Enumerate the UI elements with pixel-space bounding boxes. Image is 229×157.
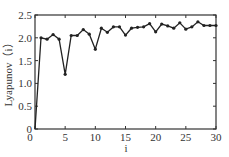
data-point-marker <box>112 25 115 28</box>
data-point-marker <box>136 26 139 29</box>
data-series <box>35 20 218 129</box>
data-point-marker <box>208 24 211 27</box>
data-point-marker <box>142 25 145 28</box>
data-point-marker <box>214 24 217 27</box>
plot-border <box>35 15 216 129</box>
x-axis-label: i <box>124 142 127 154</box>
data-point-marker <box>154 30 157 33</box>
data-point-marker <box>39 36 42 39</box>
x-tick-label: 10 <box>90 131 102 143</box>
data-point-marker <box>130 27 133 30</box>
data-point-marker <box>45 38 48 41</box>
y-tick-label: 1.5 <box>18 55 32 67</box>
x-tick-label: 0 <box>27 131 33 143</box>
data-point-marker <box>202 24 205 27</box>
data-point-marker <box>196 20 199 23</box>
data-point-marker <box>160 23 163 26</box>
lyapunov-line-chart: 00.51.01.52.02.5 051015202530 i Lyapunov… <box>0 0 229 157</box>
x-tick-label: 30 <box>211 131 223 143</box>
data-point-marker <box>100 27 103 30</box>
data-point-marker <box>118 25 121 28</box>
data-point-marker <box>82 28 85 31</box>
data-point-marker <box>184 28 187 31</box>
y-tick-label: 0.5 <box>18 100 32 112</box>
data-point-marker <box>94 48 97 51</box>
series-line <box>35 22 216 129</box>
data-point-marker <box>106 31 109 34</box>
x-tick-label: 25 <box>180 131 192 143</box>
data-point-marker <box>148 22 151 25</box>
data-point-marker <box>76 34 79 37</box>
plot-frame <box>35 15 216 129</box>
x-tick-label: 5 <box>62 131 68 143</box>
data-point-marker <box>70 34 73 37</box>
data-point-marker <box>124 33 127 36</box>
y-tick-label: 2.5 <box>18 9 32 21</box>
data-point-marker <box>64 73 67 76</box>
y-tick-label: 1.0 <box>18 77 32 89</box>
data-point-marker <box>166 24 169 27</box>
data-point-marker <box>172 27 175 30</box>
x-tick-label: 20 <box>150 131 162 143</box>
data-point-marker <box>52 33 55 36</box>
data-point-marker <box>88 33 91 36</box>
data-point-marker <box>178 21 181 24</box>
data-point-marker <box>58 38 61 41</box>
y-tick-label: 2.0 <box>18 32 32 44</box>
data-point-marker <box>190 25 193 28</box>
y-axis-label: Lyapunov（i） <box>2 37 14 106</box>
